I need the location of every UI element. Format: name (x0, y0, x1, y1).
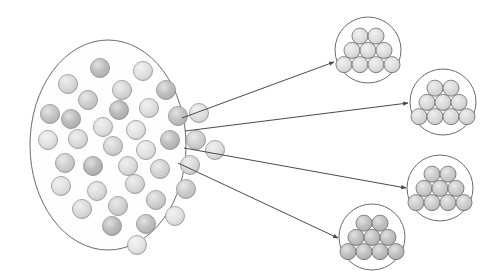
population-particle-highlight (39, 131, 58, 150)
population-particle-highlight (190, 104, 209, 123)
cluster-particle-highlight (388, 244, 404, 260)
population-particle-highlight (41, 105, 60, 124)
cluster-particle-highlight (432, 180, 448, 196)
cluster-particle-highlight (340, 244, 356, 260)
cluster-particle-highlight (376, 42, 392, 58)
cluster-particle-highlight (459, 109, 475, 125)
cluster-particle-highlight (356, 215, 372, 231)
population-particle-highlight (151, 160, 170, 179)
population-particle-highlight (134, 62, 153, 81)
population-particle-highlight (128, 236, 147, 255)
cluster-particle-highlight (448, 180, 464, 196)
cluster-particle-highlight (372, 244, 388, 260)
cluster-particle-highlight (352, 57, 368, 73)
cluster-particle-highlight (344, 42, 360, 58)
cluster-particle-highlight (364, 229, 380, 245)
cluster-3 (407, 155, 473, 221)
population-particle-highlight (140, 99, 159, 118)
population-particle-highlight (137, 141, 156, 160)
population-particle-highlight (73, 200, 92, 219)
population-particle-highlight (166, 207, 185, 226)
cluster-particle-highlight (348, 229, 364, 245)
population-particle-highlight (88, 182, 107, 201)
population-particle-highlight (169, 107, 188, 126)
cluster-particle-highlight (411, 109, 427, 125)
cluster-particle-highlight (424, 195, 440, 211)
cluster-particle-highlight (368, 28, 384, 44)
source-population (30, 40, 225, 255)
population-particle-highlight (206, 141, 225, 160)
figure-canvas (0, 0, 499, 280)
cluster-particle-highlight (440, 195, 456, 211)
population-particle-highlight (104, 137, 123, 156)
population-particle-highlight (157, 81, 176, 100)
population-particle-highlight (56, 154, 75, 173)
cluster-1 (335, 17, 401, 83)
arrow-to-cluster-4 (178, 163, 338, 238)
cluster-particle-highlight (356, 244, 372, 260)
cluster-particle-highlight (435, 94, 451, 110)
population-particle-highlight (127, 121, 146, 140)
cluster-particle-highlight (368, 57, 384, 73)
population-particle-highlight (110, 101, 129, 120)
cluster-particle-highlight (456, 195, 472, 211)
population-particle-highlight (59, 75, 78, 94)
population-particle-highlight (84, 157, 103, 176)
cluster-particle-highlight (380, 229, 396, 245)
population-particle-highlight (91, 59, 110, 78)
cluster-particle-highlight (352, 28, 368, 44)
cluster-particle-highlight (424, 166, 440, 182)
population-particle-highlight (79, 91, 98, 110)
population-particle-highlight (147, 191, 166, 210)
arrow-to-cluster-2 (185, 103, 408, 131)
cluster-particle-highlight (336, 57, 352, 73)
population-particle-highlight (109, 197, 128, 216)
cluster-particle-highlight (419, 94, 435, 110)
cluster-particle-highlight (384, 57, 400, 73)
population-particle-highlight (137, 215, 156, 234)
cluster-particle-highlight (427, 109, 443, 125)
cluster-particle-highlight (427, 80, 443, 96)
population-particle-highlight (119, 157, 138, 176)
population-particle-highlight (113, 81, 132, 100)
population-particle-highlight (161, 131, 180, 150)
cluster-particle-highlight (443, 80, 459, 96)
population-particle-highlight (126, 175, 145, 194)
cluster-particle-highlight (372, 215, 388, 231)
cluster-particle-highlight (440, 166, 456, 182)
cluster-particle-highlight (451, 94, 467, 110)
cluster-particle-highlight (360, 42, 376, 58)
population-particle-highlight (69, 130, 88, 149)
population-particle-highlight (62, 110, 81, 129)
particle-clustering-diagram (0, 0, 499, 280)
cluster-particle-highlight (443, 109, 459, 125)
population-particle-highlight (52, 177, 71, 196)
population-particle-highlight (187, 131, 206, 150)
population-particle-highlight (94, 118, 113, 137)
cluster-particle-highlight (416, 180, 432, 196)
population-particle-highlight (177, 180, 196, 199)
arrow-to-cluster-1 (182, 62, 334, 118)
cluster-particle-highlight (408, 195, 424, 211)
cluster-2 (410, 69, 476, 135)
cluster-4 (339, 204, 405, 270)
cluster-group (335, 17, 476, 270)
arrow-to-cluster-3 (184, 148, 406, 188)
population-particle-highlight (103, 217, 122, 236)
